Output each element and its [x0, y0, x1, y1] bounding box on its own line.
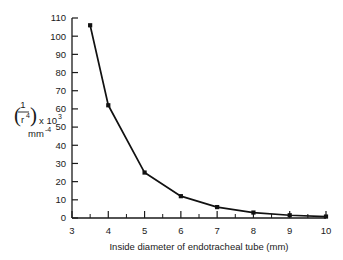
x-tick-label: 3 — [69, 225, 74, 236]
data-point-marker — [324, 214, 328, 218]
y-tick-label: 60 — [55, 103, 66, 114]
y-tick-label: 80 — [55, 67, 66, 78]
x-axis-caption: Inside diameter of endotracheal tube (mm… — [109, 241, 288, 252]
y-label-multiplier: x 10 — [39, 115, 57, 126]
chart-figure: ( 1 r 4 ) x 10 3 mm -4 01020304050607080… — [0, 0, 343, 260]
y-tick-label: 20 — [55, 176, 66, 187]
y-tick-label: 0 — [61, 212, 66, 223]
y-tick-label: 70 — [55, 85, 66, 96]
y-label-units: mm — [28, 128, 44, 139]
data-point-marker — [251, 210, 255, 214]
y-tick-label: 90 — [55, 49, 66, 60]
data-point-marker — [215, 205, 219, 209]
y-tick-label: 100 — [50, 31, 66, 42]
y-tick-label: 10 — [55, 194, 66, 205]
data-point-marker — [288, 213, 292, 217]
data-point-marker — [88, 23, 92, 27]
x-tick-label: 4 — [106, 225, 111, 236]
y-label-units-exponent: -4 — [45, 126, 51, 133]
y-label-denominator: r — [21, 114, 24, 125]
x-tick-label: 7 — [214, 225, 219, 236]
x-tick-label: 8 — [251, 225, 256, 236]
data-point-marker — [106, 103, 110, 107]
data-point-marker — [142, 170, 146, 174]
y-tick-label: 50 — [55, 121, 66, 132]
x-tick-label: 5 — [142, 225, 147, 236]
chart-canvas: ( 1 r 4 ) x 10 3 mm -4 01020304050607080… — [0, 0, 343, 260]
y-label-close-paren: ) — [30, 103, 37, 127]
x-tick-label: 6 — [178, 225, 183, 236]
x-tick-label: 9 — [287, 225, 292, 236]
y-tick-label: 40 — [55, 140, 66, 151]
x-tick-label: 10 — [321, 225, 332, 236]
data-point-marker — [179, 194, 183, 198]
y-label-numerator: 1 — [20, 99, 25, 110]
y-tick-label: 110 — [51, 12, 66, 23]
y-tick-label: 30 — [55, 158, 66, 169]
